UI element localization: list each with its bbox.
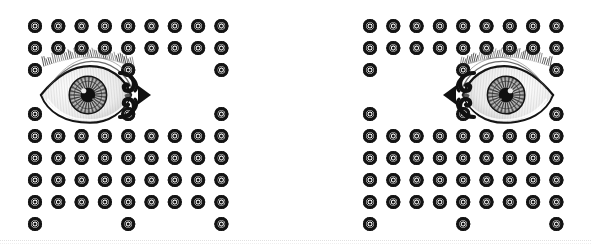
rosette-motif [410, 129, 424, 143]
illustration-canvas [0, 0, 592, 252]
rosette-motif [168, 173, 182, 187]
rosette-motif [363, 107, 377, 121]
rosette-motif [51, 151, 65, 165]
rosette-motif [410, 41, 424, 55]
rosette-motif [386, 195, 400, 209]
rosette-motif [526, 19, 540, 33]
rosette-motif [28, 195, 42, 209]
rosette-motif [98, 173, 112, 187]
rosette-motif [98, 151, 112, 165]
rosette-motif [145, 173, 159, 187]
rosette-motif [363, 63, 377, 77]
rosette-motif [214, 151, 228, 165]
rosette-motif [191, 195, 205, 209]
rosette-motif [456, 217, 470, 231]
rosette-motif [526, 151, 540, 165]
rosette-motif [28, 129, 42, 143]
rosette-motif [363, 41, 377, 55]
rosette-motif [503, 195, 517, 209]
rosette-motif [75, 151, 89, 165]
rosette-motif [214, 63, 228, 77]
rosette-motif [28, 217, 42, 231]
rosette-motif [433, 19, 447, 33]
rosette-motif [28, 107, 42, 121]
rosette-motif [549, 129, 563, 143]
rosette-motif [456, 151, 470, 165]
rosette-motif [549, 41, 563, 55]
rosette-motif [51, 195, 65, 209]
rosette-motif [386, 173, 400, 187]
rosette-motif [503, 151, 517, 165]
rosette-motif [28, 19, 42, 33]
bottom-dotted-rule [0, 240, 592, 241]
rosette-motif [121, 173, 135, 187]
rosette-motif [75, 19, 89, 33]
rosette-motif [145, 129, 159, 143]
scene-svg [0, 0, 592, 252]
rosette-motif [51, 129, 65, 143]
rosette-motif [410, 19, 424, 33]
rosette-motif [410, 151, 424, 165]
rosette-motif [386, 129, 400, 143]
rosette-motif [549, 151, 563, 165]
bottom-dotted-rule-secondary [0, 243, 592, 244]
rosette-motif [480, 195, 494, 209]
rosette-motif [549, 19, 563, 33]
rosette-motif [549, 173, 563, 187]
rosette-motif [121, 217, 135, 231]
rosette-motif [480, 129, 494, 143]
rosette-motif [121, 151, 135, 165]
rosette-motif [363, 129, 377, 143]
rosette-motif [363, 151, 377, 165]
rosette-motif [526, 195, 540, 209]
rosette-motif [480, 151, 494, 165]
rosette-motif [51, 19, 65, 33]
rosette-motif [549, 217, 563, 231]
rosette-motif [145, 195, 159, 209]
rosette-motif [121, 19, 135, 33]
rosette-motif [214, 173, 228, 187]
rosette-motif [363, 217, 377, 231]
rosette-motif [363, 195, 377, 209]
rosette-motif [214, 217, 228, 231]
rosette-motif [456, 173, 470, 187]
rosette-motif [214, 195, 228, 209]
rosette-motif [191, 151, 205, 165]
rosette-motif [121, 41, 135, 55]
rosette-motif [28, 41, 42, 55]
rosette-motif [168, 41, 182, 55]
rosette-motif [526, 173, 540, 187]
rosette-motif [503, 129, 517, 143]
rosette-motif [98, 129, 112, 143]
rosette-motif [51, 41, 65, 55]
rosette-motif [145, 151, 159, 165]
rosette-motif [121, 195, 135, 209]
rosette-motif [433, 129, 447, 143]
rosette-motif [168, 19, 182, 33]
rosette-motif [28, 63, 42, 77]
rosette-motif [28, 151, 42, 165]
rosette-motif [410, 173, 424, 187]
rosette-motif [214, 129, 228, 143]
rosette-motif [503, 41, 517, 55]
rosette-motif [456, 129, 470, 143]
rosette-motif [456, 19, 470, 33]
rosette-motif [503, 19, 517, 33]
rosette-motif [28, 173, 42, 187]
rosette-motif [191, 129, 205, 143]
rosette-motif [526, 129, 540, 143]
rosette-motif [191, 19, 205, 33]
rosette-motif [386, 19, 400, 33]
rosette-motif [480, 173, 494, 187]
rosette-motif [75, 173, 89, 187]
rosette-motif [98, 195, 112, 209]
rosette-motif [386, 151, 400, 165]
rosette-motif [480, 19, 494, 33]
rosette-motif [145, 41, 159, 55]
rosette-motif [363, 173, 377, 187]
rosette-motif [51, 173, 65, 187]
rosette-motif [433, 195, 447, 209]
rosette-motif [214, 107, 228, 121]
rosette-motif [191, 173, 205, 187]
rosette-motif [503, 173, 517, 187]
